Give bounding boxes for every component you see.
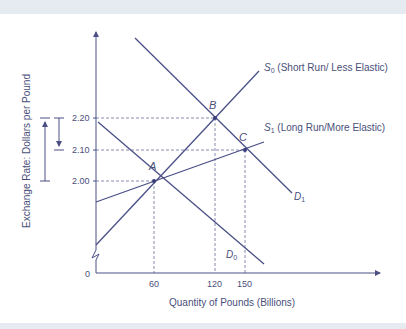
x-tick-150: 150	[237, 279, 252, 289]
bottom-band	[0, 323, 406, 329]
y-tick-2-10: 2.10	[72, 145, 90, 155]
x-tick-60: 60	[149, 279, 159, 289]
y-tick-2-00: 2.00	[72, 176, 90, 186]
label-b: B	[209, 99, 216, 111]
x-axis-title: Quantity of Pounds (Billions)	[169, 297, 295, 308]
axis-break-icon	[92, 250, 99, 260]
label-c: C	[239, 131, 247, 143]
label-a: A	[148, 160, 156, 172]
point-c	[243, 148, 247, 152]
guide-lines	[96, 118, 245, 273]
point-b	[213, 116, 217, 120]
exchange-rate-chart: 2.20 2.10 2.00 0 60 120 150 A B C S0 (Sh…	[0, 0, 406, 329]
y-tick-2-20: 2.20	[72, 113, 90, 123]
y-axis-title: Exchange Rate: Dollars per Pound	[21, 74, 32, 228]
label-s1: S1 (Long Run/More Elastic)	[264, 122, 385, 134]
supply-curve-s0	[96, 71, 259, 245]
point-a	[152, 179, 156, 183]
supply-curve-s1	[96, 142, 264, 202]
label-d1: D1	[294, 191, 305, 203]
label-d0: D0	[226, 249, 237, 261]
label-s0: S0 (Short Run/ Less Elastic)	[264, 62, 388, 74]
x-tick-120: 120	[207, 279, 222, 289]
x-tick-0: 0	[85, 269, 90, 279]
